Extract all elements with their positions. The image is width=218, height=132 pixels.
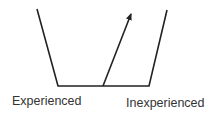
- label-experienced: Experienced: [12, 94, 82, 108]
- container-outline: [37, 9, 167, 86]
- label-inexperienced: Inexperienced: [126, 96, 205, 110]
- direction-arrow: [103, 14, 131, 86]
- diagram-canvas: [0, 0, 218, 132]
